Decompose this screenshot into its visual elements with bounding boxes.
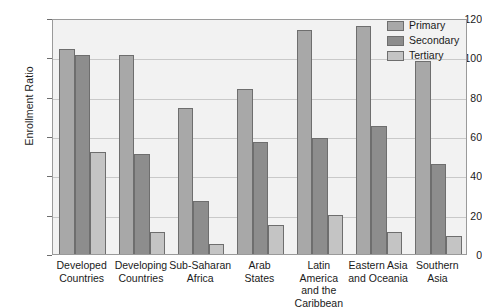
legend-swatch-icon (387, 51, 404, 61)
chart-legend: PrimarySecondaryTertiary (387, 19, 459, 62)
bar (312, 138, 328, 254)
legend-swatch-icon (387, 36, 404, 46)
bar (297, 30, 313, 254)
x-axis-label: SouthernAsia (402, 259, 473, 284)
bar (253, 142, 269, 254)
bar (431, 164, 447, 254)
bar (193, 201, 209, 254)
x-axis-label-line: Caribbean (283, 297, 354, 308)
bar (415, 61, 431, 254)
x-axis-label-line: Southern (402, 259, 473, 272)
bar (119, 55, 135, 254)
bar (268, 225, 284, 255)
legend-item: Secondary (387, 34, 459, 47)
y-axis-title: Enrollment Ratio (23, 21, 35, 191)
bar (59, 49, 75, 254)
bar-group (231, 20, 290, 254)
bar (446, 236, 462, 254)
bar (90, 152, 106, 254)
bar (328, 215, 344, 254)
legend-item: Primary (387, 19, 459, 32)
enrollment-ratio-bar-chart: Enrollment Ratio 020406080100120 Develop… (0, 0, 482, 308)
bar (75, 55, 91, 254)
bar (237, 89, 253, 254)
x-axis-label-line: and the (283, 284, 354, 297)
bar (387, 232, 403, 254)
legend-swatch-icon (387, 21, 404, 31)
bar (178, 108, 194, 254)
x-axis-label-line: Asia (402, 272, 473, 285)
bar (150, 232, 166, 254)
legend-item: Tertiary (387, 49, 459, 62)
bar (371, 126, 387, 254)
legend-label: Secondary (409, 35, 459, 46)
bar-group (290, 20, 349, 254)
bar-group (53, 20, 112, 254)
bar (134, 154, 150, 254)
bar (356, 26, 372, 254)
legend-label: Primary (409, 20, 445, 31)
legend-label: Tertiary (409, 50, 443, 61)
bar-group (172, 20, 231, 254)
bar-group (112, 20, 171, 254)
bar (209, 244, 225, 254)
y-axis-tick-mark (47, 255, 52, 256)
